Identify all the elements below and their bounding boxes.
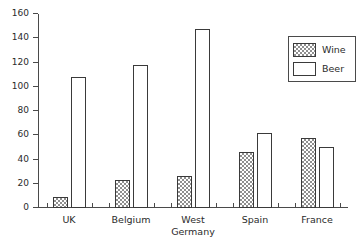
y-tick: 0	[33, 207, 38, 208]
bar-wine-spain	[239, 152, 254, 208]
y-tick: 140	[33, 37, 38, 38]
bar-beer-uk	[71, 77, 86, 208]
y-tick: 120	[33, 62, 38, 63]
y-tick-label: 0	[23, 201, 29, 214]
bar-chart: 020406080100120140160 UKBelgiumWest Germ…	[0, 0, 363, 247]
legend-label-beer: Beer	[322, 63, 344, 75]
y-tick: 20	[33, 183, 38, 184]
x-tick	[295, 203, 296, 208]
y-tick-label: 60	[18, 128, 29, 141]
legend-swatch-wine	[293, 43, 316, 57]
y-tick: 60	[33, 134, 38, 135]
bar-wine-belgium	[115, 180, 130, 208]
y-tick-label: 100	[12, 80, 29, 93]
x-tick	[92, 203, 93, 208]
y-tick-label: 120	[12, 56, 29, 69]
x-label-west-germany: West Germany	[162, 214, 224, 238]
legend-item-beer: Beer	[293, 60, 351, 78]
bar-beer-france	[319, 147, 334, 208]
x-tick	[278, 203, 279, 208]
y-tick-label: 20	[18, 177, 29, 190]
bar-wine-uk	[53, 197, 68, 208]
y-tick-label: 80	[18, 104, 29, 117]
legend-label-wine: Wine	[322, 44, 346, 56]
x-label-belgium: Belgium	[100, 214, 162, 226]
x-label-france: France	[286, 214, 348, 226]
y-axis-line	[38, 14, 39, 208]
y-tick: 80	[33, 110, 38, 111]
x-tick	[109, 203, 110, 208]
x-tick	[233, 203, 234, 208]
x-label-uk: UK	[38, 214, 100, 226]
x-tick	[171, 203, 172, 208]
y-tick: 160	[33, 13, 38, 14]
x-tick	[47, 203, 48, 208]
x-label-spain: Spain	[224, 214, 286, 226]
legend-item-wine: Wine	[293, 41, 351, 59]
legend: Wine Beer	[288, 36, 356, 82]
y-tick-label: 40	[18, 153, 29, 166]
y-tick-label: 160	[12, 7, 29, 20]
y-tick: 100	[33, 86, 38, 87]
bar-wine-west-germany	[177, 176, 192, 208]
bar-beer-west-germany	[195, 29, 210, 208]
bar-beer-belgium	[133, 65, 148, 208]
y-tick-label: 140	[12, 31, 29, 44]
x-tick	[154, 203, 155, 208]
x-tick	[216, 203, 217, 208]
bar-wine-france	[301, 138, 316, 208]
bar-beer-spain	[257, 133, 272, 208]
x-tick	[340, 203, 341, 208]
legend-swatch-beer	[293, 62, 316, 76]
y-tick: 40	[33, 159, 38, 160]
